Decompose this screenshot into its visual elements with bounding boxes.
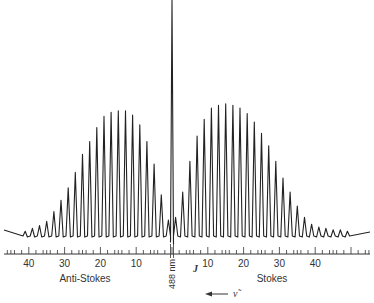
tick-label: 30 [59, 258, 71, 269]
tick-label: 10 [202, 258, 214, 269]
anti-stokes-label: Anti-Stokes [59, 273, 110, 284]
tick-label: 10 [131, 258, 143, 269]
tick-label: 40 [23, 258, 35, 269]
stokes-label: Stokes [257, 273, 288, 284]
raman-spectrum-chart: 4030201010203040 Anti-Stokes Stokes J 48… [0, 0, 374, 303]
tick-label: 20 [95, 258, 107, 269]
wavenumber-label: ν̃ [233, 288, 241, 299]
laser-wavelength-label: 488 nm [167, 259, 177, 289]
tick-label: 30 [274, 258, 286, 269]
tick-label: 20 [238, 258, 250, 269]
j-axis-label: J [192, 263, 199, 274]
spectrum-trace [4, 0, 370, 244]
spectrum-line [4, 0, 370, 244]
tick-label: 40 [310, 258, 322, 269]
wavenumber-arrow-icon [205, 292, 228, 297]
j-axis [4, 244, 370, 258]
